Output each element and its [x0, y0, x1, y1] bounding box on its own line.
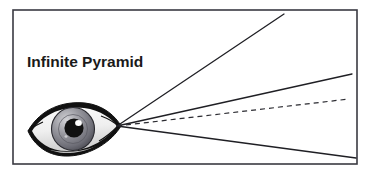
figure-root: Infinite Pyramid	[0, 0, 375, 176]
eye-highlight	[75, 120, 82, 126]
page-title: Infinite Pyramid	[27, 53, 143, 70]
infinite-pyramid-diagram: Infinite Pyramid	[0, 0, 375, 176]
eye-highlight-secondary	[65, 135, 68, 137]
